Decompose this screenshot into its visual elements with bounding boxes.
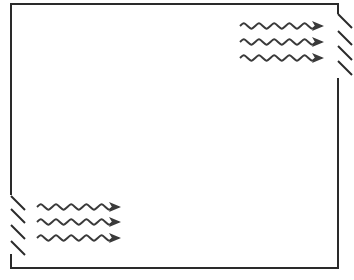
ventilation-diagram [0, 0, 354, 280]
lower-airflow [37, 204, 119, 240]
louver-blade [338, 14, 352, 28]
wavy-arrow-icon [240, 55, 322, 60]
louver-blade [338, 31, 352, 45]
lower-left-louver [11, 196, 25, 255]
wavy-arrow-icon [37, 235, 119, 240]
upper-right-louver [338, 14, 352, 75]
louver-blade [11, 225, 25, 239]
wavy-arrow-icon [240, 23, 322, 28]
airflow-arrows [37, 23, 322, 240]
diagram-canvas [0, 0, 354, 280]
louver-blade [11, 241, 25, 255]
wall-top-segment [11, 4, 338, 195]
louver-blade [11, 196, 25, 210]
upper-airflow [240, 23, 322, 60]
louver-blade [11, 209, 25, 223]
room-walls [11, 4, 338, 268]
wavy-arrow-icon [37, 204, 119, 209]
wavy-arrow-icon [37, 219, 119, 224]
louvers [11, 14, 352, 255]
louver-blade [338, 61, 352, 75]
louver-blade [338, 46, 352, 60]
wavy-arrow-icon [240, 39, 322, 44]
